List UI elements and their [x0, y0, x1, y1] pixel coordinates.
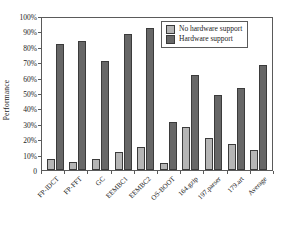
bar: [137, 147, 145, 170]
bar: [228, 144, 236, 170]
legend-swatch-icon: [166, 25, 175, 34]
bar: [47, 159, 55, 170]
x-axis-tickmark-2: [87, 171, 88, 174]
bar: [78, 41, 86, 170]
bar: [250, 150, 258, 170]
y-axis-tick-4: 40%: [0, 105, 37, 114]
y-axis-tick-10: 100%: [0, 13, 37, 22]
x-axis-tickmark-1: [64, 171, 65, 174]
bar-group: [247, 18, 270, 170]
bar: [259, 65, 267, 170]
x-axis-tickmark-end: [273, 171, 274, 174]
x-axis-tickmark-7: [203, 171, 204, 174]
y-axis-tick-1: 10%: [0, 151, 37, 160]
bar: [205, 138, 213, 170]
y-axis-tick-0: 0: [0, 167, 37, 176]
x-axis-tickmark-6: [180, 171, 181, 174]
bar: [115, 152, 123, 170]
y-axis-tick-8: 80%: [0, 43, 37, 52]
x-axis-tickmark-5: [157, 171, 158, 174]
bar: [160, 163, 168, 170]
y-axis-tick-5: 50%: [0, 90, 37, 99]
x-axis-tickmark-3: [111, 171, 112, 174]
y-axis-tick-6: 60%: [0, 74, 37, 83]
bar-group: [89, 18, 112, 170]
bar: [56, 44, 64, 170]
legend-entry: No hardware support: [166, 25, 242, 34]
bar-group: [44, 18, 67, 170]
x-axis-tickmark-9: [250, 171, 251, 174]
legend-label: No hardware support: [179, 25, 242, 34]
legend-swatch-icon: [166, 35, 175, 44]
y-axis-tick-9: 90%: [0, 28, 37, 37]
bar-group: [67, 18, 90, 170]
chart-legend: No hardware supportHardware support: [161, 21, 248, 48]
bar: [69, 162, 77, 170]
bar: [191, 75, 199, 170]
performance-bar-chart: Performance 010%20%30%40%50%60%70%80%90%…: [0, 0, 284, 229]
bar: [146, 28, 154, 170]
y-axis-tick-2: 20%: [0, 136, 37, 145]
bar-group: [112, 18, 135, 170]
bar: [214, 95, 222, 170]
x-axis-tickmark-0: [41, 171, 42, 174]
bar: [92, 159, 100, 170]
bar-group: [134, 18, 157, 170]
bar: [101, 61, 109, 170]
y-axis-tick-7: 70%: [0, 59, 37, 68]
legend-entry: Hardware support: [166, 35, 242, 44]
bar: [182, 127, 190, 170]
bar: [237, 88, 245, 170]
legend-label: Hardware support: [179, 35, 233, 44]
y-axis-tick-3: 30%: [0, 120, 37, 129]
x-axis-tickmark-8: [227, 171, 228, 174]
bar: [169, 122, 177, 170]
x-axis-tick-9: Average: [220, 175, 269, 224]
bar: [124, 34, 132, 170]
x-axis-tickmark-4: [134, 171, 135, 174]
